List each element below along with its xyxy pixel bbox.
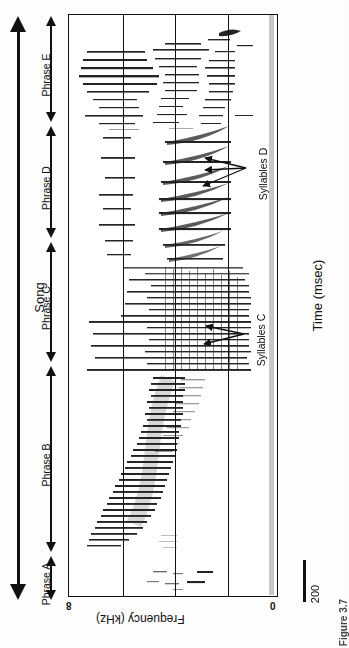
scalebar-line — [303, 560, 306, 602]
phrase-d-label: Phrase D — [40, 158, 52, 218]
figure-caption: Figure 3.7 — [338, 598, 349, 648]
phrase-c-arrow-bottom — [46, 352, 56, 362]
time-axis-title: Time (msec) — [310, 251, 325, 341]
axis-tick-8: 8 — [66, 600, 72, 611]
phrase-a-label: Phrase A — [40, 554, 52, 614]
phrase-b-label: Phrase B — [40, 435, 52, 495]
spectrogram-traces — [69, 15, 276, 595]
song-bracket-arrow-bottom — [10, 584, 26, 600]
phrase-c-label: Phrase C — [40, 278, 52, 338]
phrase-d-arrow-top — [46, 126, 56, 136]
scalebar-label: 200 — [309, 574, 321, 614]
frequency-axis-title: Frequency (kHz) — [96, 612, 185, 626]
song-bracket-arrow-top — [10, 16, 26, 32]
syllables-d-label: Syllables D — [257, 129, 269, 219]
phrase-e-label: Phrase E — [40, 45, 52, 105]
phrase-e-arrow-bottom — [46, 112, 56, 122]
phrase-d-arrow-bottom — [46, 228, 56, 238]
phrase-b-arrow-top — [46, 366, 56, 376]
phrase-e-arrow-top — [46, 16, 56, 26]
spectrogram-plot — [68, 14, 278, 597]
syllables-c-label: Syllables C — [255, 295, 267, 385]
axis-tick-0: 0 — [270, 600, 276, 611]
phrase-c-arrow-top — [46, 242, 56, 252]
phrase-b-arrow-bottom — [46, 542, 56, 552]
